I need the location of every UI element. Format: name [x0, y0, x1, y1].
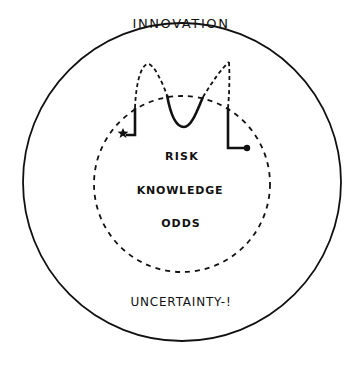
right-dashed-rise — [203, 62, 229, 97]
odds-label: ODDS — [161, 217, 201, 230]
risk-label: RISK — [165, 150, 199, 163]
outer-uncertainty-circle — [23, 23, 341, 341]
uncertainty-label: UNCERTAINTY-! — [130, 295, 231, 309]
end-dot-icon — [244, 145, 250, 151]
end-solid-segment — [228, 108, 246, 148]
star-icon — [118, 128, 129, 138]
knowledge-label: KNOWLEDGE — [137, 184, 224, 197]
right-dashed-drop — [228, 62, 229, 108]
middle-solid-dip — [167, 95, 203, 127]
diagram-canvas — [0, 0, 358, 365]
start-solid-segment — [126, 108, 135, 135]
innovation-label: INNOVATION — [133, 16, 230, 31]
